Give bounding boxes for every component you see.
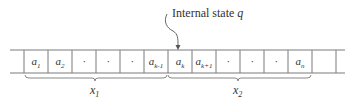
tape-cell-dot: · <box>72 56 96 70</box>
tape-cell-ak+1: ak+1 <box>192 56 216 70</box>
tape-cell-a1: a1 <box>24 56 48 70</box>
internal-state-label: Internal state q <box>172 6 243 21</box>
tape-cell-ak-1: ak-1 <box>144 56 168 70</box>
tape-cell-dot: · <box>240 56 264 70</box>
brace-label-x1: x1 <box>90 84 99 99</box>
tape-cell-dot: · <box>216 56 240 70</box>
tape-cell-a2: a2 <box>48 56 72 70</box>
tape-cell-an: an <box>288 56 312 70</box>
state-variable: q <box>237 6 243 20</box>
brace-x1 <box>25 75 167 81</box>
tape-cell-dot: · <box>120 56 144 70</box>
tape-cell-ak: ak <box>168 56 192 70</box>
brace-label-x2: x2 <box>233 84 242 99</box>
head-arrowhead-icon <box>176 45 181 50</box>
tape-cell-dot: · <box>264 56 288 70</box>
tape-cell-dot: · <box>96 56 120 70</box>
brace-x2 <box>168 75 311 81</box>
